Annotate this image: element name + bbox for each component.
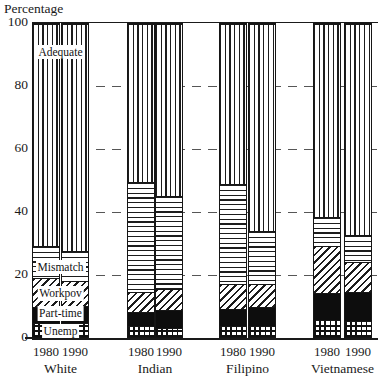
x-year-label-indian-1990: 1990	[156, 344, 182, 360]
x-year-label-vietnamese-1980: 1980	[314, 344, 340, 360]
bar-segment-adequate	[156, 24, 182, 196]
bar-filipino-1990	[248, 23, 276, 338]
bar-segment-adequate	[249, 24, 275, 231]
bar-indian-1980	[127, 23, 155, 338]
bar-segment-mismatch	[128, 182, 154, 292]
bar-segment-parttime	[156, 310, 182, 327]
inline-label-adequate: Adequate	[36, 45, 84, 59]
bar-segment-adequate	[345, 24, 371, 235]
y-tick-label-60: 60	[0, 140, 28, 156]
bar-segment-workpov	[314, 246, 340, 293]
inline-label-mismatch: Mismatch	[36, 260, 86, 274]
y-tick-label-40: 40	[0, 203, 28, 219]
x-year-label-indian-1980: 1980	[128, 344, 154, 360]
bar-segment-parttime	[220, 309, 246, 326]
inline-label-unemp: Unemp	[42, 324, 80, 338]
bar-segment-adequate	[314, 24, 340, 216]
bar-segment-parttime	[249, 307, 275, 326]
bar-filipino-1980	[219, 23, 247, 338]
x-group-label-vietnamese: Vietnamese	[311, 361, 374, 377]
bar-segment-mismatch	[345, 235, 371, 262]
bar-segment-unemp	[128, 326, 154, 337]
bar-segment-workpov	[220, 284, 246, 309]
bar-segment-unemp	[156, 328, 182, 337]
bar-segment-mismatch	[220, 184, 246, 284]
bar-segment-workpov	[156, 289, 182, 311]
bar-segment-mismatch	[314, 217, 340, 247]
bar-segment-workpov	[345, 262, 371, 292]
bar-segment-parttime	[345, 292, 371, 322]
x-year-label-filipino-1990: 1990	[249, 344, 275, 360]
bar-vietnamese-1990	[344, 23, 372, 338]
x-year-label-white-1980: 1980	[33, 344, 59, 360]
x-year-label-vietnamese-1990: 1990	[345, 344, 371, 360]
plot-area: AdequateMismatchWorkpovPart-timeUnemp	[32, 22, 378, 340]
x-group-label-indian: Indian	[138, 361, 173, 377]
bar-segment-workpov	[249, 284, 275, 307]
bar-indian-1990	[155, 23, 183, 338]
bar-segment-adequate	[220, 24, 246, 184]
bar-segment-unemp	[314, 320, 340, 337]
stacked-bar-chart-figure: Percentage AdequateMismatchWorkpovPart-t…	[0, 0, 380, 387]
x-year-label-white-1990: 1990	[62, 344, 88, 360]
bar-segment-parttime	[128, 312, 154, 326]
y-tick-label-80: 80	[0, 77, 28, 93]
bar-segment-adequate	[128, 24, 154, 182]
x-year-label-filipino-1980: 1980	[220, 344, 246, 360]
bar-segment-workpov	[128, 292, 154, 312]
x-group-label-white: White	[44, 361, 77, 377]
inline-label-parttime: Part-time	[37, 306, 84, 320]
bar-segment-unemp	[220, 326, 246, 337]
bar-segment-unemp	[249, 326, 275, 337]
bar-segment-mismatch	[156, 196, 182, 288]
y-tick-label-20: 20	[0, 266, 28, 282]
bar-vietnamese-1980	[313, 23, 341, 338]
inline-label-workpov: Workpov	[37, 286, 84, 300]
bar-segment-parttime	[314, 293, 340, 320]
x-group-label-filipino: Filipino	[226, 361, 269, 377]
y-tick-label-0: 0	[0, 329, 28, 345]
bar-segment-mismatch	[249, 231, 275, 284]
y-tick-label-100: 100	[0, 14, 28, 30]
bar-segment-unemp	[345, 321, 371, 337]
